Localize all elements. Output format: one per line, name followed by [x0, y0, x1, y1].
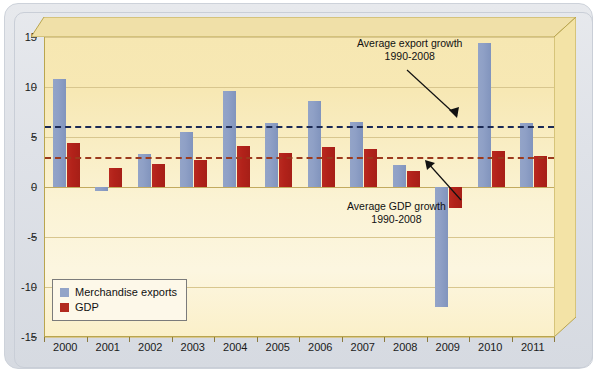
avg-gdp-annotation-arrow: [417, 154, 467, 204]
x-axis-label-2004: 2004: [223, 341, 247, 353]
x-axis-label-2011: 2011: [521, 341, 545, 353]
x-axis-label-2002: 2002: [138, 341, 162, 353]
avg-export-annotation-line1: Average export growth: [357, 37, 462, 50]
legend-swatch-gdp-icon: [60, 303, 69, 312]
x-axis-label-2006: 2006: [308, 341, 332, 353]
chart-panel: 151050-5-10-15 2000200120022003200420052…: [4, 3, 593, 369]
x-axis-label-2003: 2003: [181, 341, 205, 353]
legend-swatch-exports-icon: [60, 288, 69, 297]
x-axis-labels: 2000200120022003200420052006200720082009…: [44, 341, 554, 361]
legend-item-gdp: GDP: [60, 300, 177, 315]
x-axis-label-2008: 2008: [393, 341, 417, 353]
avg-export-annotation: Average export growth 1990-2008: [357, 37, 462, 63]
chart-legend: Merchandise exports GDP: [52, 279, 187, 321]
x-axis-label-2001: 2001: [96, 341, 120, 353]
x-axis-tick-mark: [554, 337, 555, 342]
avg-export-annotation-arrow: [403, 66, 473, 128]
avg-export-annotation-line2: 1990-2008: [357, 50, 462, 63]
y-axis-tick-mark: [31, 337, 37, 338]
x-axis-label-2009: 2009: [436, 341, 460, 353]
x-axis-label-2007: 2007: [351, 341, 375, 353]
avg-gdp-annotation-line2: 1990-2008: [347, 213, 446, 226]
chart-figure: 151050-5-10-15 2000200120022003200420052…: [0, 0, 597, 373]
x-axis-label-2010: 2010: [478, 341, 502, 353]
plot-right-bevel: [554, 17, 576, 337]
legend-item-exports: Merchandise exports: [60, 285, 177, 300]
legend-label-exports: Merchandise exports: [75, 285, 177, 300]
x-axis-label-2005: 2005: [266, 341, 290, 353]
x-axis-label-2000: 2000: [53, 341, 77, 353]
legend-label-gdp: GDP: [75, 300, 99, 315]
